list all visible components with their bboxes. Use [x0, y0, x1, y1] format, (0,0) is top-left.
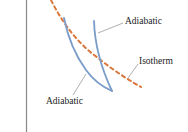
adiabatic-curve-left [64, 18, 112, 91]
leader-isotherm [128, 64, 138, 78]
leader-adiabatic-bottom [73, 74, 86, 95]
leader-adiabatic-top [98, 23, 123, 33]
label-adiabatic-top: Adiabatic [125, 17, 162, 27]
label-isotherm: Isotherm [139, 57, 173, 67]
label-adiabatic-bottom: Adiabatic [46, 97, 83, 107]
